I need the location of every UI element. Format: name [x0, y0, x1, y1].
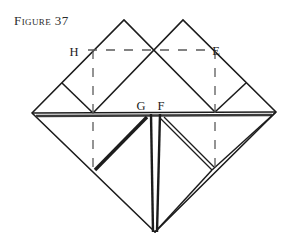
central-vertical-pair	[151, 114, 160, 232]
fold-edge-right-over-left	[93, 20, 276, 113]
fold-edge-left-over-right	[32, 20, 215, 113]
corner-flaps	[62, 83, 246, 113]
central-vertical-left	[151, 114, 153, 232]
lower-inner-triangles	[95, 112, 276, 232]
inner-diagonal-right-a	[160, 118, 212, 170]
midline-upper	[32, 112, 276, 113]
midline-lower-shadow	[36, 115, 272, 116]
label-E: E	[212, 44, 220, 58]
figure-root: Figure 37	[0, 0, 293, 250]
figure-diagram: H E G F	[0, 0, 293, 250]
flap-left-edge	[62, 83, 93, 113]
inner-leg-right	[155, 170, 212, 232]
inner-diagonal-right-b	[164, 117, 214, 167]
central-vertical-right	[157, 114, 160, 232]
label-G: G	[136, 99, 145, 113]
inner-leg-right-up	[212, 112, 276, 170]
midline-group	[32, 112, 276, 116]
flap-right-edge	[215, 83, 246, 112]
label-F: F	[158, 99, 165, 113]
inner-diagonal-left	[95, 117, 147, 170]
upper-folded-squares	[32, 20, 276, 113]
label-H: H	[69, 45, 78, 59]
outer-diamond-lower	[32, 112, 276, 232]
